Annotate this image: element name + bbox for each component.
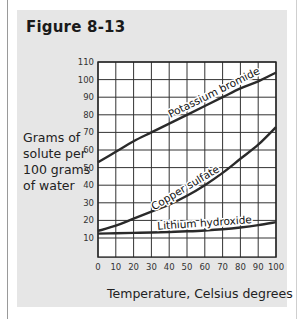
- y-tick-label: 30: [83, 198, 94, 208]
- y-tick-label: 60: [83, 145, 94, 155]
- y-tick-label: 90: [83, 92, 94, 102]
- x-tick-label: 70: [217, 262, 228, 272]
- x-tick-label: 80: [235, 262, 246, 272]
- x-tick-label: 60: [199, 262, 210, 272]
- y-tick-label: 10: [83, 233, 94, 243]
- x-tick-label: 20: [128, 262, 139, 272]
- x-tick-label: 90: [253, 262, 264, 272]
- y-tick-label: 110: [78, 57, 94, 67]
- y-tick-label: 40: [83, 180, 94, 190]
- x-tick-label: 40: [164, 262, 175, 272]
- y-tick-label: 50: [83, 163, 94, 173]
- x-tick-label: 30: [146, 262, 157, 272]
- x-tick-label: 10: [110, 262, 121, 272]
- y-tick-label: 100: [78, 75, 94, 85]
- y-tick-label: 80: [83, 110, 94, 120]
- y-tick-label: 20: [83, 215, 94, 225]
- x-tick-label: 100: [268, 262, 284, 272]
- y-tick-label: 70: [83, 127, 94, 137]
- x-tick-label: 0: [95, 262, 100, 272]
- solubility-chart: 0102030405060708090100102030405060708090…: [0, 0, 301, 319]
- x-tick-label: 50: [182, 262, 193, 272]
